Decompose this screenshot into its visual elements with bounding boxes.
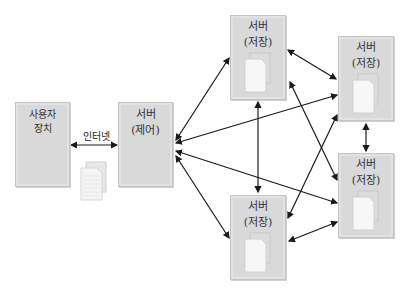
storage-server-right-bottom-box: 서버 (저장)	[338, 153, 394, 238]
node-label-line2: (저장)	[231, 35, 285, 50]
node-label-line1: 사용자	[16, 107, 69, 122]
node-label-line2: (저장)	[339, 173, 393, 188]
storage-server-top-box: 서버 (저장)	[230, 15, 286, 100]
arrow-righttop-bottom	[288, 115, 337, 218]
document-icon	[244, 52, 274, 96]
storage-server-bottom-box: 서버 (저장)	[230, 195, 286, 280]
node-label-line2: (저장)	[339, 56, 393, 71]
document-icon	[352, 190, 382, 234]
node-label-line1: 서버	[119, 107, 172, 122]
node-label-line2: 장치	[16, 121, 69, 136]
node-label-line1: 서버	[231, 19, 285, 34]
arrow-control-storage-bottom	[176, 156, 229, 238]
document-icon	[352, 73, 382, 117]
node-label-line2: (저장)	[231, 215, 285, 230]
internet-label: 인터넷	[78, 128, 114, 143]
arrow-top-righttop	[288, 50, 336, 79]
user-device-box: 사용자 장치	[15, 102, 70, 187]
arrow-control-storage-top	[176, 58, 229, 140]
node-label-line1: 서버	[339, 157, 393, 172]
storage-server-right-top-box: 서버 (저장)	[338, 36, 394, 121]
node-label-line2: (제어)	[119, 123, 172, 138]
document-icon	[244, 232, 274, 276]
node-label-line1: 서버	[339, 40, 393, 55]
arrow-rightbottom-bottom	[289, 222, 337, 241]
control-server-box: 서버 (제어)	[118, 102, 173, 187]
document-icon	[80, 160, 110, 202]
node-label-line1: 서버	[231, 199, 285, 214]
